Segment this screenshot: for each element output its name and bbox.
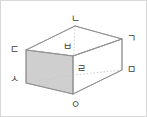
vertex-label-o: ㅇ — [71, 100, 80, 110]
vertex-label-g: ㄱ — [127, 34, 136, 44]
vertex-label-m: ㅁ — [127, 65, 136, 75]
vertex-label-b: ㅂ — [63, 42, 72, 52]
vertex-label-d: ㄷ — [10, 45, 19, 55]
vertex-label-s: ㅅ — [10, 74, 19, 84]
vertex-label-r: ㄹ — [77, 64, 86, 74]
vertex-label-n: ㄴ — [71, 14, 80, 24]
face-front-left-shaded — [26, 50, 73, 94]
cuboid-figure: ㄱ ㄴ ㄷ ㄹ ㅁ ㅂ ㅅ ㅇ — [0, 0, 147, 117]
